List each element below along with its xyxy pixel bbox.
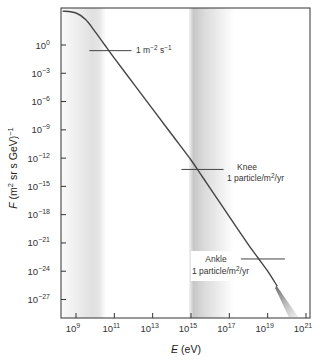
shaded-band-low-energy bbox=[61, 8, 106, 318]
annotation-knee-title: Knee bbox=[237, 162, 257, 172]
annotation-one-per-m2-s: 1 m−2 s−1 bbox=[136, 44, 172, 56]
annotation-ankle-title: Ankle bbox=[205, 254, 227, 264]
x-tick-label: 1021 bbox=[294, 322, 312, 334]
y-tick-label: 10−6 bbox=[31, 95, 50, 107]
x-axis-title: E (eV) bbox=[171, 343, 201, 355]
x-tick-label: 1015 bbox=[179, 322, 197, 334]
y-tick-label: 10−15 bbox=[28, 180, 51, 192]
annotation-ankle-rate: 1 particle/m2/yr bbox=[192, 265, 249, 277]
flux-curve-tail-uncertainty bbox=[275, 285, 298, 317]
cosmic-ray-spectrum-chart: 109101110131015101710191021 10010−310−61… bbox=[0, 0, 323, 361]
x-tick-label: 1011 bbox=[102, 322, 120, 334]
y-tick-label: 10−27 bbox=[28, 293, 51, 305]
y-tick-label: 100 bbox=[36, 39, 51, 51]
y-tick-label: 10−9 bbox=[31, 123, 50, 135]
y-axis-ticks: 10010−310−610−910−1210−1510−1810−2110−24… bbox=[28, 39, 66, 306]
y-tick-label: 10−3 bbox=[31, 67, 50, 79]
y-tick-label: 10−12 bbox=[28, 152, 51, 164]
x-tick-label: 109 bbox=[66, 322, 81, 334]
y-tick-label: 10−18 bbox=[28, 208, 51, 220]
x-tick-label: 1013 bbox=[140, 322, 158, 334]
x-tick-label: 1017 bbox=[217, 322, 235, 334]
x-tick-label: 1019 bbox=[255, 322, 273, 334]
annotation-knee-rate: 1 particle/m2/yr bbox=[227, 172, 284, 184]
y-tick-label: 10−24 bbox=[28, 265, 51, 277]
y-axis-title: F (m2 sr s GeV)−1 bbox=[6, 127, 19, 209]
y-tick-label: 10−21 bbox=[28, 236, 51, 248]
